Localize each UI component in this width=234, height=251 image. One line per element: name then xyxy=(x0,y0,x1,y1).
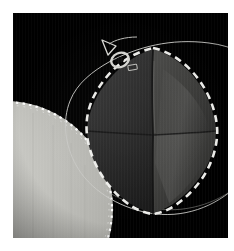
scene-layer xyxy=(13,13,228,238)
marker-arrowhead-icon xyxy=(102,40,116,55)
image-canvas[interactable] xyxy=(13,13,228,238)
viewer-root xyxy=(0,0,234,251)
marker-tab-icon xyxy=(128,64,138,70)
marker-tail xyxy=(109,37,137,44)
